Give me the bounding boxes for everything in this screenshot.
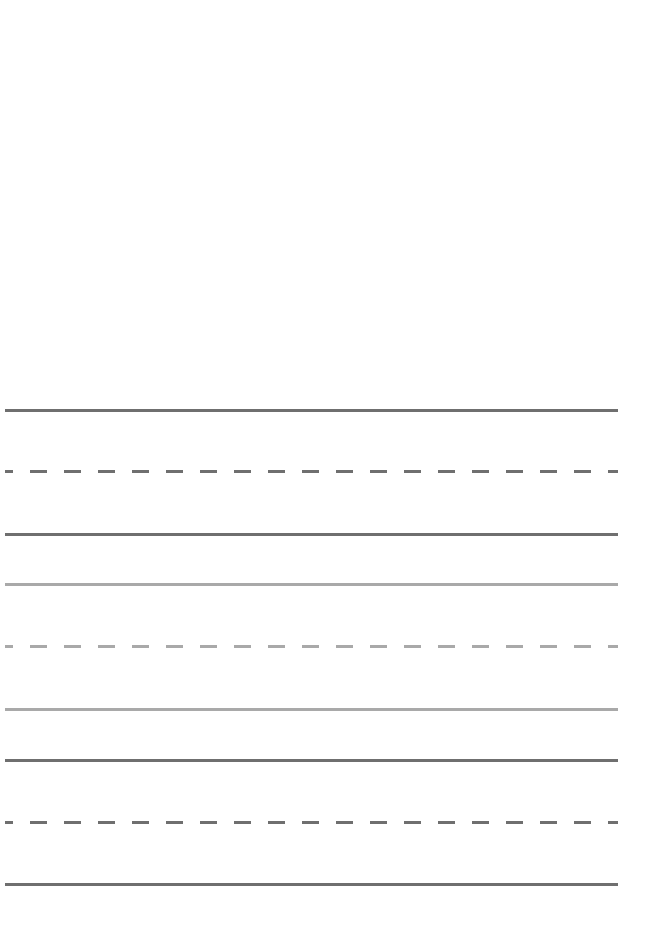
midline-dashed bbox=[5, 821, 618, 824]
bottom-solid-line bbox=[5, 708, 618, 711]
midline-dashed bbox=[5, 470, 618, 473]
top-solid-line bbox=[5, 583, 618, 586]
bottom-solid-line bbox=[5, 883, 618, 886]
top-solid-line bbox=[5, 409, 618, 412]
top-solid-line bbox=[5, 759, 618, 762]
midline-dashed bbox=[5, 645, 618, 648]
bottom-solid-line bbox=[5, 533, 618, 536]
